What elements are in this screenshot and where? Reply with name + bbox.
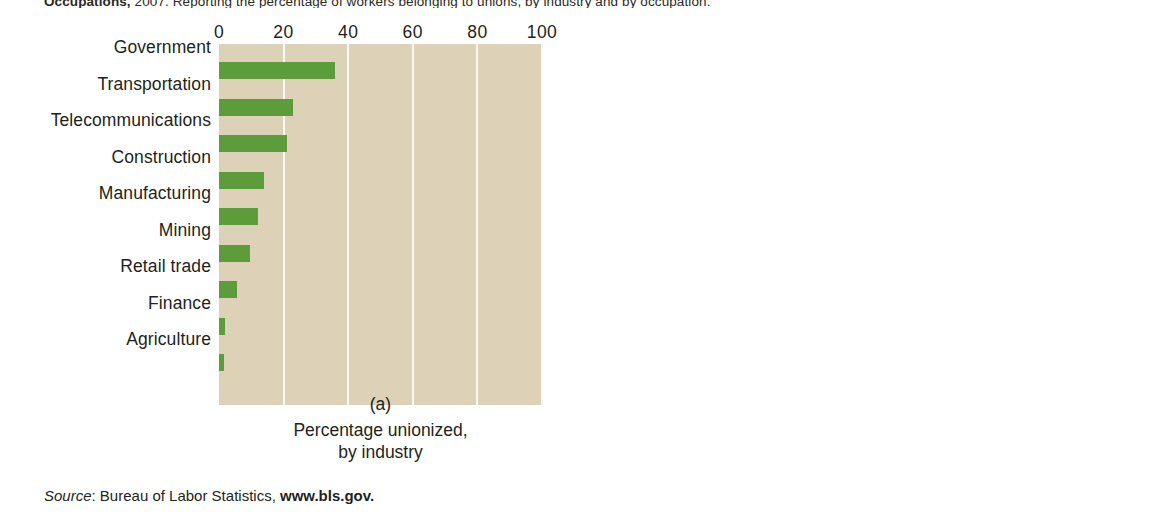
gridline-a [476,44,478,405]
category-label-a: Telecommunications [51,112,211,129]
bar-a [219,318,225,335]
source-note: Source: Bureau of Labor Statistics, www.… [44,487,374,504]
x-axis-tick-a: 80 [467,22,487,43]
plot-area-a [219,44,542,405]
category-label-a: Mining [159,222,211,239]
source-url[interactable]: www.bls.gov. [280,487,374,504]
x-axis-b: 020406080100 [600,22,1170,44]
category-label-a: Agriculture [126,331,211,348]
figure-title-bold: Occupations, [44,0,131,8]
category-label-a: Finance [148,295,211,312]
source-body: : Bureau of Labor Statistics, [92,487,280,504]
bar-a [219,281,237,298]
figure-title-rest: 2007. Reporting the percentage of worker… [131,0,711,8]
gridline-a [541,44,543,405]
bar-a [219,208,258,225]
caption-a: (a) Percentage unionized, by industry [219,393,542,463]
bar-a [219,172,264,189]
source-label: Source [44,487,92,504]
bar-a [219,245,250,262]
caption-a-line1: Percentage unionized, [293,420,467,440]
caption-a-line2: by industry [338,442,423,462]
x-axis-a: 020406080100 [0,22,572,44]
figure-title: Occupations, 2007. Reporting the percent… [44,0,1134,8]
panel-index-a: (a) [219,393,542,415]
gridline-a [347,44,349,405]
bar-a [219,135,287,152]
gridline-a [412,44,414,405]
bar-a [219,354,224,371]
category-label-a: Transportation [97,76,211,93]
category-label-a: Construction [112,149,211,166]
bar-a [219,99,293,116]
x-axis-tick-a: 40 [338,22,358,43]
category-label-a: Retail trade [120,258,211,275]
x-axis-tick-a: 60 [403,22,423,43]
category-label-a: Manufacturing [99,185,211,202]
bar-a [219,62,335,79]
x-axis-tick-a: 100 [527,22,558,43]
x-axis-tick-a: 20 [273,22,293,43]
x-axis-tick-a: 0 [214,22,224,43]
